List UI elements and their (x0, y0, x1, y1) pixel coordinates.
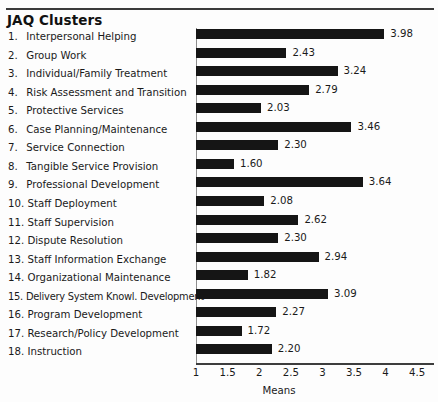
bar-value-label: 3.09 (334, 288, 357, 299)
bar-category-label: 14. Organizational Maintenance (8, 271, 198, 284)
bar-value-label: 2.08 (270, 195, 293, 206)
bar-category-label: 6. Case Planning/Maintenance (8, 123, 198, 136)
bar-category-label: 4. Risk Assessment and Transition (8, 86, 198, 99)
bar-row: 5. Protective Services2.03 (0, 102, 438, 121)
bar-row: 17. Research/Policy Development1.72 (0, 325, 438, 344)
bar-row: 7. Service Connection2.30 (0, 139, 438, 158)
bar-row: 16. Program Development2.27 (0, 306, 438, 325)
bar-value-label: 3.46 (357, 121, 380, 132)
bar-item-number: 13. (8, 253, 24, 266)
bar-value-label: 2.30 (284, 232, 307, 243)
bar (196, 103, 261, 113)
bar-category-label: 9. Professional Development (8, 178, 198, 191)
bar (196, 270, 248, 280)
x-axis-tick-label: 1.5 (219, 367, 235, 378)
bar-item-number: 3. (8, 67, 23, 80)
bar-category-label: 3. Individual/Family Treatment (8, 67, 198, 80)
bar-item-text: Professional Development (23, 179, 159, 190)
bar-value-label: 1.60 (240, 158, 263, 169)
bar-value-label: 3.64 (369, 176, 392, 187)
bar-item-number: 7. (8, 141, 23, 154)
bar (196, 122, 351, 132)
bar-item-number: 6. (8, 123, 23, 136)
x-axis-tick-label: 4.5 (409, 367, 425, 378)
bar-row: 11. Staff Supervision2.62 (0, 214, 438, 233)
bar-value-label: 1.72 (248, 325, 271, 336)
bar (196, 344, 272, 354)
bar-category-label: 5. Protective Services (8, 104, 198, 117)
bar-item-number: 11. (8, 216, 24, 229)
bar-category-label: 10. Staff Deployment (8, 197, 198, 210)
bar-item-number: 10. (8, 197, 24, 210)
bar-value-label: 2.03 (267, 102, 290, 113)
x-axis-line (196, 363, 434, 365)
bar-item-text: Staff Information Exchange (24, 254, 166, 265)
figure-container: JAQ Clusters 1. Interpersonal Helping3.9… (0, 0, 438, 402)
bar-item-number: 14. (8, 271, 24, 284)
bar-item-text: Individual/Family Treatment (23, 68, 167, 79)
bar (196, 233, 278, 243)
page-title: JAQ Clusters (7, 12, 102, 28)
bar-item-text: Program Development (24, 309, 142, 320)
bar-row: 4. Risk Assessment and Transition2.79 (0, 84, 438, 103)
bar-row: 13. Staff Information Exchange2.94 (0, 251, 438, 270)
top-rule-divider (6, 8, 434, 10)
bar-row: 15. Delivery System Knowl. Development3.… (0, 288, 438, 307)
bar-item-number: 5. (8, 104, 23, 117)
bar-item-text: Protective Services (23, 105, 124, 116)
bar-row: 2. Group Work2.43 (0, 47, 438, 66)
bar (196, 215, 298, 225)
bar-value-label: 2.94 (325, 251, 348, 262)
bar-item-text: Group Work (23, 50, 86, 61)
bar (196, 196, 264, 206)
bar (196, 307, 276, 317)
bar-item-text: Staff Deployment (24, 198, 117, 209)
bar-value-label: 3.24 (344, 65, 367, 76)
bar-item-text: Research/Policy Development (24, 328, 179, 339)
bar-item-number: 17. (8, 327, 24, 340)
bar-category-label: 12. Dispute Resolution (8, 234, 198, 247)
bar-category-label: 7. Service Connection (8, 141, 198, 154)
bar-item-text: Risk Assessment and Transition (23, 87, 187, 98)
bar-item-text: Delivery System Knowl. Development (23, 291, 204, 302)
bar-row: 8. Tangible Service Provision1.60 (0, 158, 438, 177)
bar-item-text: Organizational Maintenance (24, 272, 170, 283)
bar-item-text: Interpersonal Helping (23, 31, 136, 42)
bar (196, 29, 384, 39)
bar (196, 289, 328, 299)
bar-row: 18. Instruction2.20 (0, 343, 438, 362)
bar (196, 252, 319, 262)
bar-chart-plot-area: 1. Interpersonal Helping3.982. Group Wor… (0, 28, 438, 364)
bar-category-label: 2. Group Work (8, 49, 198, 62)
bar-value-label: 2.43 (292, 47, 315, 58)
bar-item-text: Dispute Resolution (24, 235, 123, 246)
bar-row: 1. Interpersonal Helping3.98 (0, 28, 438, 47)
bar (196, 85, 309, 95)
bar-category-label: 11. Staff Supervision (8, 216, 198, 229)
x-axis-tick-label: 4 (382, 367, 388, 378)
bar (196, 326, 242, 336)
bar-item-number: 2. (8, 49, 23, 62)
bar-row: 12. Dispute Resolution2.30 (0, 232, 438, 251)
bar-value-label: 2.27 (282, 306, 305, 317)
bar (196, 159, 234, 169)
bar-category-label: 17. Research/Policy Development (8, 327, 198, 340)
bar-item-number: 15. (8, 290, 23, 303)
bar-category-label: 13. Staff Information Exchange (8, 253, 198, 266)
bar-row: 9. Professional Development3.64 (0, 176, 438, 195)
bar-item-number: 18. (8, 345, 24, 358)
bar (196, 140, 278, 150)
bar-item-number: 9. (8, 178, 23, 191)
bar-item-text: Instruction (24, 346, 82, 357)
bar (196, 177, 363, 187)
bar-value-label: 2.62 (304, 214, 327, 225)
bar-row: 6. Case Planning/Maintenance3.46 (0, 121, 438, 140)
bar-value-label: 2.79 (315, 84, 338, 95)
x-axis-title-text: Means (262, 385, 295, 396)
bar (196, 66, 338, 76)
bar-item-text: Service Connection (23, 142, 125, 153)
bar-category-label: 18. Instruction (8, 345, 198, 358)
x-axis-tick-label: 1 (193, 367, 199, 378)
x-axis-tick-label: 2 (256, 367, 262, 378)
x-axis-tick-label: 3 (319, 367, 325, 378)
